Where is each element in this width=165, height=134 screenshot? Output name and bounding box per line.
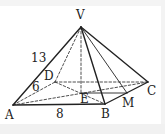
label-V: V [76, 9, 85, 21]
label-B: B [101, 108, 110, 120]
length-VA: 13 [31, 52, 46, 64]
edge-VA [13, 27, 81, 105]
length-AB: 8 [56, 108, 64, 120]
edge-VD [55, 27, 81, 82]
length-AD: 6 [32, 81, 40, 93]
label-A: A [5, 109, 14, 121]
label-C: C [147, 85, 156, 97]
edge-AB [13, 104, 105, 105]
label-M: M [122, 97, 134, 109]
label-D: D [44, 70, 54, 82]
edge-VC [81, 27, 148, 82]
label-E: E [80, 93, 89, 105]
